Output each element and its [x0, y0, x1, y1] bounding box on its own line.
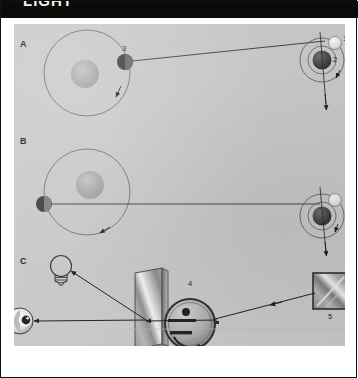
light-bulb-icon: [51, 256, 72, 286]
earth-body-a: [329, 37, 342, 50]
jupiter-body-b: [76, 171, 104, 199]
toothed-wheel: [165, 299, 219, 346]
earth-body-b: [329, 194, 342, 207]
panel-label-a: A: [20, 39, 27, 49]
figure-plate: A B C 1 2 3 4 5: [14, 24, 345, 346]
io-moon-shadow-a: [125, 54, 133, 70]
earth-orbit-arrow-b: [335, 224, 338, 232]
callout-1: 1: [343, 34, 345, 43]
header-caption: LIGHT: [23, 1, 73, 9]
half-silvered-glass: [135, 268, 168, 346]
callout-4: 4: [188, 279, 192, 288]
callout-3: 3: [122, 44, 126, 53]
callout-5: 5: [328, 312, 332, 321]
beam-glass-to-eye: [34, 320, 146, 321]
panel-c-group: [14, 256, 345, 347]
eye-icon: [14, 308, 33, 334]
panel-a-group: [44, 30, 344, 116]
axis-arrow-b: [325, 242, 327, 256]
jupiter-body-a: [71, 60, 99, 88]
panel-label-b: B: [20, 136, 27, 146]
beam-mirror-arrowhead: [270, 302, 282, 305]
header-band: LIGHT: [1, 1, 358, 18]
sight-line-a: [132, 41, 325, 61]
panel-b-group: [36, 149, 344, 256]
plate-bottom-margin: [14, 346, 345, 363]
distant-mirror: [313, 273, 345, 309]
beam-glass-to-mirror-right: [215, 293, 315, 319]
orbit-direction-arrow-b: [100, 227, 110, 233]
panel-label-c: C: [20, 256, 27, 266]
io-moon-shadow-b: [44, 196, 52, 212]
figure-illustration: [14, 24, 345, 346]
orbit-direction-arrow-a: [116, 86, 121, 97]
callout-2: 2: [333, 55, 337, 64]
